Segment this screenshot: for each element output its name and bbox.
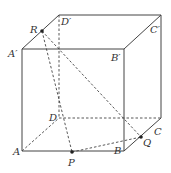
label-r: R <box>29 24 38 35</box>
label-a: A <box>12 146 20 157</box>
label-q: Q <box>143 137 151 148</box>
label-a1: A′ <box>7 48 18 59</box>
cube-figure: R D′ C′ A′ B′ D C A B Q P <box>0 0 171 173</box>
label-d1: D′ <box>60 16 72 27</box>
label-p: P <box>67 157 75 168</box>
edge-a1-d1 <box>22 15 59 49</box>
label-c: C <box>154 126 162 137</box>
point-r <box>40 29 44 33</box>
label-c1: C′ <box>150 24 161 35</box>
label-b: B <box>113 145 121 156</box>
label-b1: B′ <box>110 52 121 63</box>
point-p <box>70 150 74 154</box>
label-d: D <box>48 112 57 123</box>
